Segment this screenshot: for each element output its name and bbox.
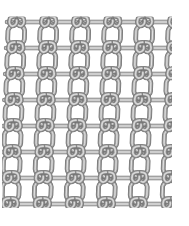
mesh-image-canvas (0, 0, 189, 226)
wire-mesh-illustration (0, 0, 189, 226)
